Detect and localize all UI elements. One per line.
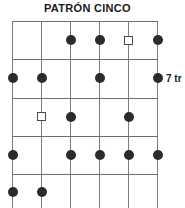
fret-line-1 [13,59,158,60]
string-line-6 [157,21,159,208]
note-marker-s4-f4 [95,150,105,160]
note-marker-s2-f3 [37,112,46,121]
note-marker-s5-f4 [124,150,134,160]
fret-line-2 [13,98,158,99]
fret-line-4 [13,174,158,175]
fretboard-grid [0,0,185,208]
note-marker-s4-f2 [95,73,105,83]
note-marker-s2-f2 [37,73,47,83]
fret-line-3 [13,136,158,137]
note-marker-s5-f3 [124,112,134,122]
note-marker-s5-f1 [124,36,133,45]
note-marker-s1-f4 [8,150,18,160]
note-marker-s2-f5 [37,187,47,197]
fret-position-label: 7 tr [166,73,182,84]
string-line-1 [12,21,14,208]
note-marker-s6-f1 [153,35,163,45]
note-marker-s3-f4 [66,150,76,160]
pattern-diagram: PATRÓN CINCO 7 tr [0,0,185,208]
note-marker-s6-f4 [153,150,163,160]
note-marker-s1-f2 [8,73,18,83]
note-marker-s6-f2 [153,73,163,83]
note-marker-s4-f1 [95,35,105,45]
string-line-4 [99,21,101,208]
note-marker-s3-f1 [66,35,76,45]
fret-line-0 [13,21,158,22]
note-marker-s1-f5 [8,187,18,197]
note-marker-s3-f3 [66,112,76,122]
